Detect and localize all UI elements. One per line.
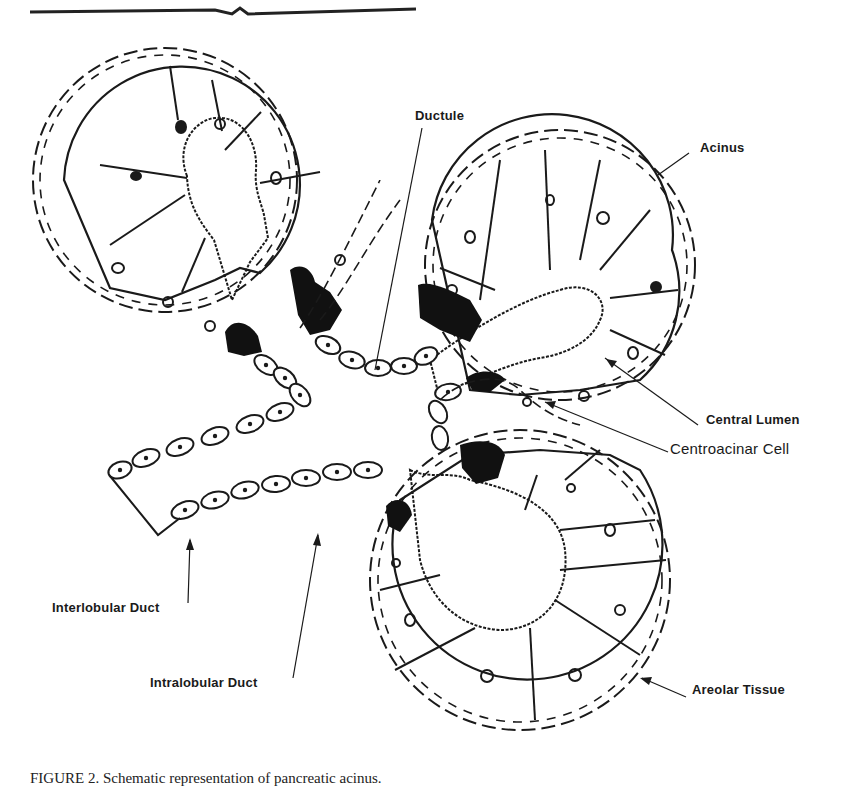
zymogen-granules	[418, 284, 482, 342]
label-intralobular-duct: Intralobular Duct	[150, 675, 257, 690]
zymogen-granules	[225, 323, 262, 356]
arrowheads	[186, 359, 652, 685]
zymogen-granules	[460, 441, 505, 484]
figure-caption: FIGURE 2. Schematic representation of pa…	[30, 770, 382, 787]
interlobular-duct-wall	[110, 476, 180, 535]
label-centroacinar-cell: Centroacinar Cell	[670, 440, 789, 457]
label-interlobular-duct: Interlobular Duct	[52, 600, 159, 615]
label-central-lumen: Central Lumen	[706, 412, 800, 427]
right-acinus	[425, 114, 695, 406]
lower-acinus	[370, 430, 670, 730]
zymogen-granules	[386, 500, 412, 532]
label-areolar-tissue: Areolar Tissue	[692, 682, 785, 697]
top-rule	[30, 8, 416, 14]
label-ductule: Ductule	[415, 108, 464, 123]
label-acinus: Acinus	[700, 140, 745, 155]
